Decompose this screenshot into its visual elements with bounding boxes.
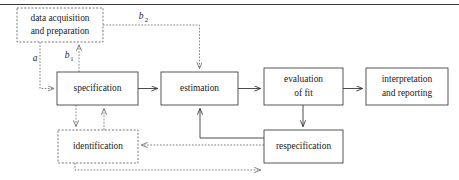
edge-label-b2: b 2 (139, 11, 149, 23)
node-identification: identification (58, 130, 138, 163)
edge-label-b2-subscript: 2 (145, 16, 148, 23)
node-data-acquisition-label-line1: data acquisition (30, 13, 89, 23)
node-specification: specification (57, 72, 138, 105)
node-evaluation-of-fit-label-line1: evaluation (284, 74, 323, 84)
edge-label-b2-base: b (139, 11, 144, 21)
node-data-acquisition: data acquisition and preparation (17, 8, 103, 42)
node-respecification: respecification (264, 130, 343, 163)
node-evaluation-of-fit: evaluation of fit (264, 68, 343, 105)
diagram-canvas: data acquisition and preparation specifi… (0, 0, 459, 180)
edge-label-b1: b 1 (65, 50, 74, 62)
node-respecification-label: respecification (276, 141, 331, 151)
edge-respecification-to-estimation (200, 109, 264, 139)
flow-diagram-figure: data acquisition and preparation specifi… (0, 0, 459, 180)
edge-label-b1-base: b (65, 50, 70, 60)
node-interpretation-and-reporting-label-line1: interpretation (382, 74, 433, 84)
edge-data-acquisition-to-estimation (103, 25, 200, 69)
edge-data-acquisition-to-specification (40, 42, 54, 89)
node-estimation-label: estimation (180, 83, 219, 93)
node-interpretation-and-reporting-label-line2: and reporting (382, 88, 433, 98)
node-estimation: estimation (161, 72, 238, 105)
node-data-acquisition-label-line2: and preparation (31, 26, 90, 36)
node-evaluation-of-fit-label-line2: of fit (294, 88, 313, 98)
edge-label-b1-subscript: 1 (70, 55, 73, 62)
node-identification-label: identification (73, 141, 123, 151)
node-interpretation-and-reporting: interpretation and reporting (366, 68, 448, 105)
edge-identification-to-respecification (75, 163, 261, 170)
node-specification-label: specification (74, 83, 122, 93)
edge-label-a: a (33, 53, 38, 63)
